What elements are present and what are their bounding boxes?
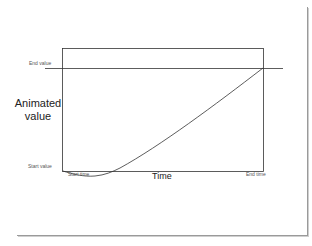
start-value-label: Start value bbox=[28, 163, 52, 169]
y-axis-label-line2: value bbox=[14, 110, 62, 123]
y-axis-label-line1: Animated bbox=[14, 97, 62, 110]
plot-frame bbox=[63, 49, 264, 172]
x-axis-label: Time bbox=[152, 171, 172, 181]
start-time-label: Start time bbox=[68, 171, 89, 177]
animation-curve-diagram bbox=[0, 0, 312, 246]
easing-curve bbox=[63, 68, 263, 176]
y-axis-label: Animated value bbox=[14, 97, 62, 123]
end-value-label: End value bbox=[29, 60, 51, 66]
end-time-label: End time bbox=[246, 171, 266, 177]
